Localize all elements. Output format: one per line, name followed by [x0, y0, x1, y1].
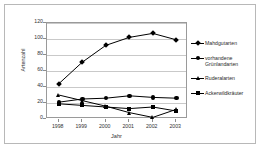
x-tick-mark	[128, 119, 129, 122]
y-tick-label: 40	[21, 83, 43, 88]
data-point-marker	[174, 109, 178, 113]
legend-item[interactable]: Ackerwildkräuter	[191, 90, 257, 98]
legend-point-icon	[196, 91, 200, 95]
x-tick-label: 2003	[163, 124, 187, 129]
data-point-marker	[80, 99, 84, 103]
y-tick-label: 100	[21, 35, 43, 40]
x-tick-mark	[105, 119, 106, 122]
x-tick-mark	[58, 119, 59, 122]
x-tick-label: 1998	[46, 124, 70, 129]
y-tick-label: 120	[21, 19, 43, 24]
data-point-marker	[80, 103, 84, 107]
x-axis-title: Jahr	[46, 133, 187, 139]
data-point-marker	[151, 105, 155, 109]
data-point-marker	[56, 93, 60, 97]
legend-marker-icon	[191, 75, 204, 83]
y-axis-ticks: 020406080100120	[19, 22, 43, 118]
x-tick-mark	[152, 119, 153, 122]
data-point-marker	[151, 95, 156, 100]
series-line	[59, 33, 177, 83]
x-tick-mark	[81, 119, 82, 122]
y-tick-label: 80	[21, 51, 43, 56]
x-tick-label: 2000	[93, 124, 117, 129]
chart-legend: Mahdgutartenvorhandene GrünlandartenRude…	[191, 39, 257, 105]
y-tick-label: 20	[21, 99, 43, 104]
x-tick-label: 2001	[116, 124, 140, 129]
legend-marker-icon	[191, 39, 204, 47]
data-point-marker	[127, 111, 131, 115]
y-tick-label: 60	[21, 67, 43, 72]
legend-item[interactable]: Mahdgutarten	[191, 39, 257, 47]
legend-point-icon	[195, 40, 201, 46]
y-tick-label: 0	[21, 115, 43, 120]
legend-label: vorhandene Grünlandarten	[205, 54, 238, 68]
data-point-marker	[174, 96, 179, 101]
legend-marker-icon	[191, 90, 204, 98]
x-tick-label: 1999	[69, 124, 93, 129]
data-point-marker	[57, 102, 61, 106]
legend-item[interactable]: Ruderalarten	[191, 75, 257, 83]
legend-label: Ruderalarten	[205, 75, 235, 82]
series-line	[59, 104, 177, 111]
legend-marker-icon	[191, 54, 204, 62]
legend-label: Mahdgutarten	[205, 39, 237, 46]
x-tick-label: 2002	[140, 124, 164, 129]
legend-item[interactable]: vorhandene Grünlandarten	[191, 54, 257, 68]
legend-label: Ackerwildkräuter	[205, 90, 243, 97]
x-axis-ticks: 199819992000200120022003	[46, 119, 187, 133]
series-lines	[47, 23, 188, 119]
legend-point-icon	[196, 56, 201, 61]
chart-frame: Artenzahl 020406080100120 19981999200020…	[4, 4, 256, 144]
data-point-marker	[104, 105, 108, 109]
plot-area	[46, 22, 187, 118]
data-point-marker	[127, 94, 132, 99]
x-tick-mark	[175, 119, 176, 122]
legend-point-icon	[196, 76, 200, 80]
series-line	[59, 95, 177, 117]
data-point-marker	[127, 107, 131, 111]
